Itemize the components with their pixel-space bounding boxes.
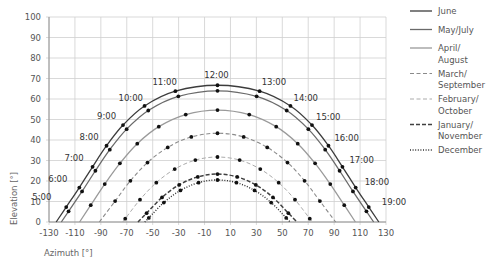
data-point: [177, 183, 181, 187]
data-point: [103, 182, 107, 186]
legend: JuneMay/JulyApril/AugustMarch/SeptemberF…: [410, 6, 485, 155]
data-point: [367, 205, 371, 209]
data-point: [216, 178, 220, 182]
data-point: [338, 169, 342, 173]
data-point: [342, 203, 346, 207]
data-point: [265, 145, 269, 149]
data-point: [253, 189, 257, 193]
x-tick-label: 10: [225, 228, 236, 238]
time-label: 8:00: [80, 132, 99, 142]
time-label: 12:00: [204, 70, 229, 80]
data-point: [196, 175, 200, 179]
data-point: [235, 181, 239, 185]
data-point: [258, 89, 262, 93]
x-axis-ticks: -130-110-90-70-50-30-101030507090110130: [39, 228, 394, 238]
legend-label: October: [438, 106, 473, 116]
data-point: [135, 142, 139, 146]
data-point: [113, 199, 117, 203]
data-point: [289, 104, 293, 108]
data-point: [216, 172, 220, 176]
y-tick-label: 20: [30, 176, 41, 186]
time-label: 11:00: [152, 77, 177, 87]
data-point: [121, 123, 125, 127]
data-point: [91, 165, 95, 169]
data-point: [80, 190, 84, 194]
data-point: [216, 131, 220, 135]
data-point: [303, 179, 307, 183]
x-tick-label: 30: [251, 228, 262, 238]
data-point: [310, 123, 314, 127]
x-axis-title: Azimuth [°]: [44, 248, 93, 258]
data-point: [146, 109, 150, 113]
series-line-february-october: [123, 157, 313, 222]
data-point: [138, 198, 142, 202]
data-point: [197, 181, 201, 185]
data-point: [143, 104, 147, 108]
data-point: [269, 201, 273, 205]
data-point: [216, 108, 220, 112]
data-point: [189, 135, 193, 139]
legend-label: September: [438, 80, 485, 90]
y-tick-label: 80: [30, 53, 41, 63]
data-point: [173, 89, 177, 93]
data-point: [286, 211, 290, 215]
data-point: [173, 167, 177, 171]
x-tick-label: -10: [198, 228, 212, 238]
data-point: [123, 217, 127, 221]
data-point: [162, 201, 166, 205]
data-point: [293, 198, 297, 202]
x-tick-label: -90: [94, 228, 108, 238]
data-point: [118, 161, 122, 165]
data-point: [327, 144, 331, 148]
data-point: [254, 183, 258, 187]
data-point: [258, 167, 262, 171]
legend-label: March/: [438, 69, 467, 79]
x-tick-label: 70: [303, 228, 314, 238]
data-point: [351, 190, 355, 194]
x-tick-label: -110: [65, 228, 84, 238]
data-point: [354, 186, 358, 190]
data-point: [179, 189, 183, 193]
data-point: [242, 135, 246, 139]
data-point: [286, 161, 290, 165]
data-point: [147, 216, 151, 220]
data-point: [128, 179, 132, 183]
legend-label: December: [438, 145, 483, 155]
y-tick-label: 100: [25, 12, 41, 22]
data-point: [166, 145, 170, 149]
x-tick-label: 50: [277, 228, 288, 238]
data-point: [255, 94, 259, 98]
data-point: [277, 181, 281, 185]
data-point: [216, 155, 220, 159]
data-point: [94, 169, 98, 173]
y-axis-title: Elevation [°]: [9, 172, 19, 225]
time-label: 15:00: [316, 112, 341, 122]
time-label: 10:00: [119, 93, 144, 103]
data-point: [341, 165, 345, 169]
data-point: [193, 158, 197, 162]
data-point: [157, 125, 161, 129]
y-tick-label: 30: [30, 156, 41, 166]
legend-label: May/July: [438, 25, 474, 35]
y-tick-label: 60: [30, 94, 41, 104]
legend-label: August: [438, 55, 468, 65]
time-label: 13:00: [262, 77, 287, 87]
data-point: [125, 127, 129, 131]
data-point: [64, 205, 68, 209]
y-tick-label: 70: [30, 74, 41, 84]
data-point: [365, 209, 369, 213]
y-tick-label: 40: [30, 135, 41, 145]
data-point: [285, 109, 289, 113]
x-tick-label: 110: [352, 228, 368, 238]
data-point: [105, 144, 109, 148]
data-point: [146, 161, 150, 165]
time-label: 16:00: [334, 133, 359, 143]
x-tick-label: 90: [329, 228, 340, 238]
time-label: 14:00: [293, 93, 318, 103]
data-point: [67, 209, 71, 213]
data-point: [89, 203, 93, 207]
time-label: 18:00: [365, 177, 390, 187]
data-point: [108, 148, 112, 152]
data-point: [184, 113, 188, 117]
time-label: 5:00: [32, 192, 51, 202]
